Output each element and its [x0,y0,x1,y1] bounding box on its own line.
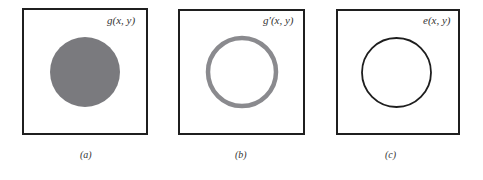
panel-c-function-label: e(x, y) [423,14,450,26]
thin-contour [0,0,483,180]
panel-c: e(x, y) (c) [0,0,483,180]
panel-c-caption: (c) [385,149,396,161]
